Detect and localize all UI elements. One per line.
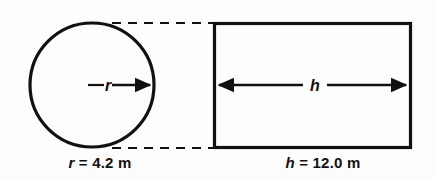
height-caption-equals: = — [295, 154, 313, 171]
radius-caption-value: 4.2 m — [92, 154, 131, 171]
figure-canvas: r h — [0, 0, 435, 180]
height-caption-symbol: h — [286, 154, 295, 171]
cylinder-dimensions-figure: r h r = 4.2 m h = 12.0 m — [0, 0, 435, 180]
height-caption: h = 12.0 m — [225, 154, 421, 171]
radius-caption-equals: = — [74, 154, 92, 171]
radius-caption: r = 4.2 m — [0, 154, 200, 171]
height-caption-value: 12.0 m — [313, 154, 361, 171]
radius-symbol-label: r — [105, 77, 112, 94]
height-symbol-label: h — [310, 77, 320, 94]
